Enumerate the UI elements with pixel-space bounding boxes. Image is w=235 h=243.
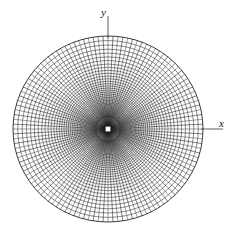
x-axis-label: x — [219, 118, 224, 129]
origin-dot — [106, 127, 111, 132]
polar-grid-canvas — [0, 0, 235, 243]
polar-grid-figure: y x — [0, 0, 235, 243]
y-axis-label: y — [101, 7, 106, 18]
